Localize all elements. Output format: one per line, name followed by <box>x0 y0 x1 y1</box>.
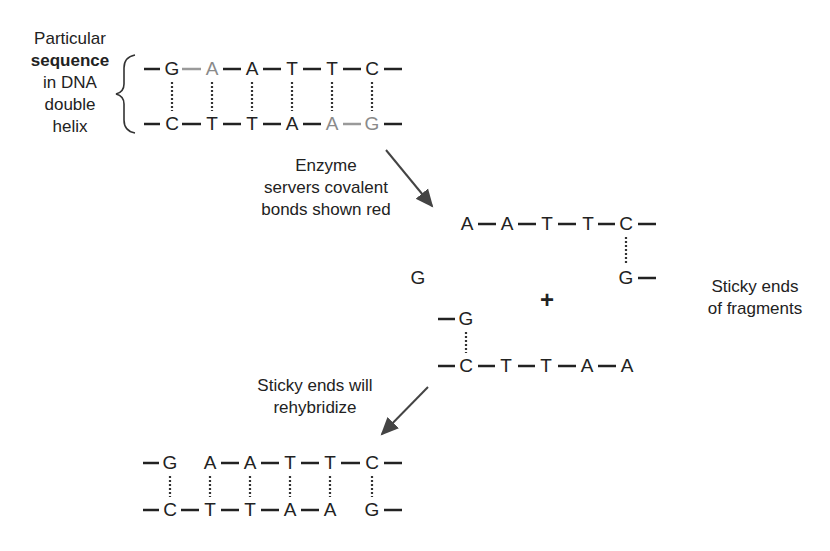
base: A <box>244 453 257 473</box>
base: A <box>621 356 634 376</box>
base: T <box>284 453 296 473</box>
base: A <box>581 356 594 376</box>
base: A <box>204 453 217 473</box>
base: C <box>165 114 179 134</box>
label-enzyme: Enzyme servers covalent bonds shown red <box>236 155 416 221</box>
base: C <box>459 356 473 376</box>
base: T <box>582 214 594 234</box>
base: C <box>619 214 633 234</box>
label-rehybridize: Sticky ends will rehybridize <box>240 375 390 419</box>
lone-base-g: G <box>411 268 426 288</box>
base: T <box>540 356 552 376</box>
label-sticky-ends: Sticky ends of fragments <box>680 276 830 320</box>
base: A <box>246 59 259 79</box>
base: A <box>501 214 514 234</box>
base: A <box>326 114 339 134</box>
base: T <box>246 114 258 134</box>
base: G <box>365 500 380 520</box>
base: T <box>206 114 218 134</box>
plus-sign: + <box>540 286 554 314</box>
base: A <box>286 114 299 134</box>
hydrogen-bonds <box>170 82 626 497</box>
base: G <box>365 114 380 134</box>
base: T <box>244 500 256 520</box>
base: G <box>163 453 178 473</box>
base: A <box>324 500 337 520</box>
base: C <box>163 500 177 520</box>
base: T <box>324 453 336 473</box>
base: G <box>459 309 474 329</box>
base: C <box>365 59 379 79</box>
base: T <box>326 59 338 79</box>
label-sequence: Particular sequence in DNA double helix <box>20 28 120 138</box>
base: G <box>619 268 634 288</box>
base: T <box>204 500 216 520</box>
base: C <box>365 453 379 473</box>
base: A <box>206 59 219 79</box>
base: T <box>500 356 512 376</box>
base: A <box>461 214 474 234</box>
base: G <box>165 59 180 79</box>
base: T <box>286 59 298 79</box>
base: A <box>284 500 297 520</box>
covalent-bonds <box>143 69 656 510</box>
base: T <box>541 214 553 234</box>
